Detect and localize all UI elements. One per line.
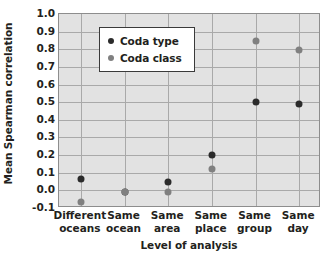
x-tick-label: Sameday — [268, 209, 328, 234]
legend-dot-coda-class-icon — [108, 55, 114, 61]
gridline-horizontal — [59, 155, 319, 156]
x-tick-label-line: day — [268, 222, 328, 235]
y-tick-label: 0.9 — [22, 25, 55, 37]
data-point — [296, 47, 303, 54]
y-tick-label: 0.7 — [22, 60, 55, 72]
data-point — [77, 175, 84, 182]
gridline-vertical — [299, 14, 300, 206]
y-tick-label: 1.0 — [22, 7, 55, 19]
gridline-horizontal — [59, 85, 319, 86]
y-tick-label: 0.2 — [22, 148, 55, 160]
data-point — [165, 189, 172, 196]
y-tick-label: 0.3 — [22, 130, 55, 142]
chart-legend: Coda type Coda class — [99, 27, 195, 72]
gridline-horizontal — [59, 102, 319, 103]
data-point — [165, 178, 172, 185]
y-tick-label: 0.1 — [22, 166, 55, 178]
x-tick-label-line: Same — [268, 209, 328, 222]
legend-entry-coda-class: Coda class — [108, 49, 194, 66]
y-tick-label: 0.4 — [22, 113, 55, 125]
x-axis-title: Level of analysis — [58, 239, 320, 251]
y-tick-label: 0.8 — [22, 42, 55, 54]
legend-dot-coda-type-icon — [108, 38, 114, 44]
scatter-chart-figure: Mean Spearman correlation 1.00.90.80.70.… — [0, 0, 335, 266]
y-axis-title: Mean Spearman correlation — [0, 0, 16, 207]
y-axis-tick-labels: 1.00.90.80.70.60.50.40.30.20.10.0-0.1 — [22, 13, 55, 207]
data-point — [296, 100, 303, 107]
data-point — [77, 198, 84, 205]
y-tick-label: 0.6 — [22, 78, 55, 90]
gridline-vertical — [212, 14, 213, 206]
legend-label-coda-type: Coda type — [120, 35, 179, 47]
legend-label-coda-class: Coda class — [120, 52, 182, 64]
gridline-horizontal — [59, 190, 319, 191]
data-point — [208, 166, 215, 173]
data-point — [121, 189, 128, 196]
gridline-horizontal — [59, 137, 319, 138]
gridline-horizontal — [59, 120, 319, 121]
y-tick-label: 0.5 — [22, 95, 55, 107]
x-axis-tick-labels: DifferentoceansSameoceanSameareaSameplac… — [58, 209, 320, 239]
data-point — [252, 99, 259, 106]
legend-entry-coda-type: Coda type — [108, 32, 194, 49]
y-tick-label: 0.0 — [22, 183, 55, 195]
data-point — [208, 152, 215, 159]
gridline-horizontal — [59, 173, 319, 174]
data-point — [252, 38, 259, 45]
